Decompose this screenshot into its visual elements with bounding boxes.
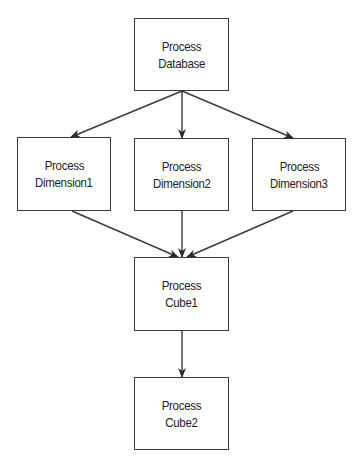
arrow-dim3-to-cube1 (187, 211, 293, 257)
node-process-dimension3: Process Dimension3 (252, 138, 346, 211)
node-label-line2: Dimension3 (270, 175, 328, 192)
node-label-line2: Cube1 (165, 294, 197, 311)
processing-flow-diagram: Process Database Process Dimension1 Proc… (0, 0, 360, 463)
node-label-line2: Dimension2 (153, 175, 211, 192)
node-label-line1: Process (44, 157, 83, 174)
node-label-line1: Process (162, 38, 201, 55)
arrow-db-to-dim1 (71, 91, 182, 137)
node-process-dimension2: Process Dimension2 (134, 138, 229, 211)
node-label-line1: Process (162, 158, 201, 175)
node-label-line1: Process (162, 277, 201, 294)
node-process-dimension1: Process Dimension1 (17, 137, 111, 211)
node-process-cube1: Process Cube1 (134, 257, 229, 331)
node-process-database: Process Database (134, 18, 229, 91)
node-label-line2: Dimension1 (35, 174, 93, 191)
arrow-dim1-to-cube1 (72, 211, 178, 257)
node-label-line2: Cube2 (165, 414, 197, 431)
node-label-line2: Database (158, 55, 205, 72)
node-label-line1: Process (279, 158, 318, 175)
node-label-line1: Process (162, 397, 201, 414)
node-process-cube2: Process Cube2 (134, 377, 229, 450)
arrow-db-to-dim3 (182, 91, 293, 138)
